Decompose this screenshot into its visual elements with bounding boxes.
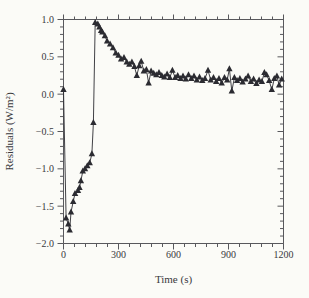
x-tick-label: 600 [166,249,181,260]
top-axis [64,15,284,20]
triangle-marker [229,88,235,94]
data-series [60,19,285,233]
plot-frame [64,18,284,244]
y-tick-label: −0.5 [36,126,54,137]
triangle-marker [202,75,208,81]
right-axis [278,20,284,244]
triangle-marker [76,184,82,190]
residuals-chart: 1.00.50.0−0.5−1.0−1.5−2.003006009001200T… [0,0,309,298]
triangle-marker [216,75,222,81]
triangle-marker [138,58,144,64]
x-axis-title: Time (s) [155,273,193,286]
series-line [64,23,282,231]
triangle-marker [87,159,93,165]
triangle-marker [134,72,140,78]
x-tick-label: 0 [61,249,66,260]
triangle-marker [67,227,73,233]
y-axis: 1.00.50.0−0.5−1.0−1.5−2.0 [36,14,64,249]
triangle-marker [145,79,151,85]
x-tick-label: 1200 [274,249,294,260]
x-axis: 03006009001200 [61,244,294,261]
triangle-marker [245,73,251,79]
triangle-marker [269,86,275,92]
x-tick-label: 900 [221,249,236,260]
triangle-marker [70,198,76,204]
triangle-marker [78,177,84,183]
x-tick-label: 300 [111,249,126,260]
triangle-marker [89,150,95,156]
y-tick-label: 1.0 [42,14,55,25]
triangle-marker [226,65,232,71]
triangle-marker [68,209,74,215]
y-tick-label: 0.0 [42,89,55,100]
triangle-marker [276,82,282,88]
triangle-marker [205,67,211,73]
y-tick-label: −1.0 [36,163,54,174]
triangle-marker [266,77,272,83]
chart-svg: 1.00.50.0−0.5−1.0−1.5−2.003006009001200T… [0,0,309,298]
y-tick-label: −2.0 [36,238,54,249]
y-axis-title: Residuals (W/m²) [3,92,16,170]
axis-titles: Time (s)Residuals (W/m²) [3,92,192,285]
triangle-marker [250,76,256,82]
y-tick-label: −1.5 [36,201,54,212]
series-markers [60,19,285,233]
triangle-marker [90,119,96,125]
triangle-marker [169,67,175,73]
y-tick-label: 0.5 [42,51,55,62]
